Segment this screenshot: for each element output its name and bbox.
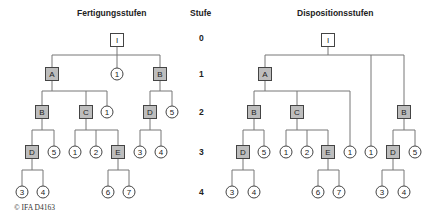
purchased-part-node-1: 1 — [111, 68, 123, 80]
purchased-part-node-1: 1 — [69, 146, 81, 158]
product-node-I: I — [111, 34, 124, 47]
product-node-I: I — [322, 34, 335, 47]
purchased-part-node-1: 1 — [365, 146, 377, 158]
svg-text:1: 1 — [73, 148, 78, 157]
svg-text:1: 1 — [105, 108, 110, 117]
svg-text:B: B — [39, 108, 44, 117]
purchased-part-node-6: 6 — [312, 186, 324, 198]
purchased-part-node-3: 3 — [134, 146, 146, 158]
purchased-part-node-3: 3 — [376, 186, 388, 198]
assembly-node-B: B — [36, 106, 49, 119]
svg-text:I: I — [116, 36, 118, 45]
assembly-node-E: E — [322, 146, 335, 159]
svg-text:2: 2 — [94, 148, 99, 157]
assembly-node-D: D — [237, 146, 250, 159]
copyright-note: © IFA D4163 — [14, 203, 55, 212]
purchased-part-node-5: 5 — [48, 146, 60, 158]
purchased-part-node-7: 7 — [123, 186, 135, 198]
svg-text:D: D — [390, 148, 396, 157]
svg-text:D: D — [240, 148, 246, 157]
svg-text:C: C — [83, 108, 89, 117]
assembly-node-B: B — [398, 106, 411, 119]
svg-text:4: 4 — [159, 148, 164, 157]
svg-text:4: 4 — [402, 188, 407, 197]
purchased-part-node-1: 1 — [101, 106, 113, 118]
purchased-part-node-1: 1 — [344, 146, 356, 158]
purchased-part-node-4: 4 — [155, 146, 167, 158]
assembly-node-A: A — [46, 68, 59, 81]
purchased-part-node-4: 4 — [37, 186, 49, 198]
svg-text:3: 3 — [138, 148, 143, 157]
svg-text:B: B — [157, 70, 162, 79]
purchased-part-node-4: 4 — [248, 186, 260, 198]
svg-text:6: 6 — [106, 188, 111, 197]
svg-text:5: 5 — [262, 148, 267, 157]
svg-text:4: 4 — [252, 188, 257, 197]
assembly-node-A: A — [259, 68, 272, 81]
svg-text:2: 2 — [305, 148, 310, 157]
assembly-node-E: E — [112, 146, 125, 159]
purchased-part-node-3: 3 — [226, 186, 238, 198]
purchased-part-node-7: 7 — [333, 186, 345, 198]
svg-text:5: 5 — [52, 148, 57, 157]
svg-text:D: D — [29, 148, 35, 157]
assembly-node-C: C — [291, 106, 304, 119]
svg-text:1: 1 — [348, 148, 353, 157]
purchased-part-node-6: 6 — [102, 186, 114, 198]
svg-text:A: A — [49, 70, 55, 79]
svg-text:E: E — [325, 148, 330, 157]
purchased-part-node-5: 5 — [258, 146, 270, 158]
purchased-part-node-3: 3 — [16, 186, 28, 198]
svg-text:C: C — [294, 108, 300, 117]
purchased-part-node-4: 4 — [398, 186, 410, 198]
right-tree: IABCBD512E11D5346734 — [226, 34, 421, 199]
svg-text:I: I — [327, 36, 329, 45]
svg-text:3: 3 — [20, 188, 25, 197]
purchased-part-node-2: 2 — [301, 146, 313, 158]
svg-text:D: D — [147, 108, 153, 117]
purchased-part-node-2: 2 — [90, 146, 102, 158]
assembly-node-D: D — [144, 106, 157, 119]
svg-text:6: 6 — [316, 188, 321, 197]
svg-text:B: B — [401, 108, 406, 117]
svg-text:E: E — [115, 148, 120, 157]
purchased-part-node-5: 5 — [166, 106, 178, 118]
assembly-node-B: B — [154, 68, 167, 81]
svg-text:5: 5 — [413, 148, 418, 157]
purchased-part-node-1: 1 — [280, 146, 292, 158]
assembly-node-C: C — [80, 106, 93, 119]
svg-text:1: 1 — [115, 70, 120, 79]
svg-text:4: 4 — [41, 188, 46, 197]
svg-text:3: 3 — [380, 188, 385, 197]
purchased-part-node-5: 5 — [409, 146, 421, 158]
svg-text:A: A — [262, 70, 268, 79]
svg-text:7: 7 — [337, 188, 342, 197]
assembly-node-D: D — [26, 146, 39, 159]
svg-text:1: 1 — [369, 148, 374, 157]
assembly-node-B: B — [248, 106, 261, 119]
svg-text:B: B — [251, 108, 256, 117]
svg-text:5: 5 — [170, 108, 175, 117]
left-tree: IA1BBC1D5D512E343467 — [16, 34, 178, 199]
bom-tree-diagram: IA1BBC1D5D512E343467IABCBD512E11D5346734 — [0, 0, 434, 223]
svg-text:3: 3 — [230, 188, 235, 197]
svg-text:1: 1 — [284, 148, 289, 157]
assembly-node-D: D — [387, 146, 400, 159]
svg-text:7: 7 — [127, 188, 132, 197]
